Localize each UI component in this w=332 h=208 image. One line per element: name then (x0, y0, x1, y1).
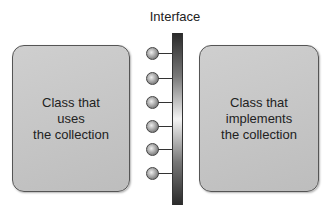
interface-connector (146, 143, 173, 155)
label-line: implements (221, 111, 297, 127)
connector-ball-icon (146, 120, 159, 133)
interface-connector (146, 72, 173, 84)
implementing-class-label: Class that implements the collection (221, 95, 297, 143)
implementing-class-box: Class that implements the collection (199, 45, 319, 192)
connector-ball-icon (146, 96, 159, 109)
interface-connector (146, 167, 173, 179)
connector-ball-icon (146, 72, 159, 85)
interface-bar (172, 33, 183, 205)
label-line: uses (33, 111, 109, 127)
label-line: Class that (221, 95, 297, 111)
using-class-box: Class that uses the collection (12, 45, 130, 192)
connector-ball-icon (146, 143, 159, 156)
interface-connector (146, 120, 173, 132)
label-line: the collection (221, 127, 297, 143)
using-class-label: Class that uses the collection (33, 95, 109, 143)
interface-label: Interface (140, 9, 210, 24)
connector-ball-icon (146, 47, 159, 60)
interface-connector (146, 47, 173, 59)
label-line: Class that (33, 95, 109, 111)
interface-connector (146, 96, 173, 108)
label-line: the collection (33, 127, 109, 143)
connector-ball-icon (146, 167, 159, 180)
